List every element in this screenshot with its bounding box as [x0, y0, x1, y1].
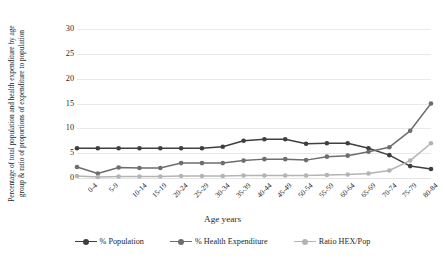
legend-item[interactable]: % Health Expenditure: [170, 237, 268, 246]
x-tick-label: 75-79: [400, 181, 418, 199]
data-point: [179, 174, 184, 179]
data-point: [325, 154, 330, 159]
x-axis-title: Age years: [0, 214, 445, 224]
x-tick-label: 0-4: [86, 181, 99, 194]
data-point: [179, 161, 184, 166]
legend-marker-icon: [75, 238, 97, 246]
data-point: [158, 146, 163, 151]
data-point: [75, 146, 80, 151]
y-tick-label: 25: [48, 49, 74, 58]
y-axis-title: Percentage of total population and healt…: [7, 19, 26, 209]
data-point: [262, 173, 267, 178]
data-point: [137, 166, 142, 171]
data-point: [179, 146, 184, 151]
data-point: [408, 158, 413, 163]
data-point: [220, 144, 225, 149]
y-tick-label: 20: [48, 74, 74, 83]
x-tick-label: 55-59: [317, 181, 335, 199]
data-point: [408, 129, 413, 134]
y-tick-label: 15: [48, 99, 74, 108]
data-point: [283, 137, 288, 142]
data-point: [241, 138, 246, 143]
data-point: [137, 146, 142, 151]
data-point: [241, 158, 246, 163]
x-tick-label: 60-64: [338, 181, 356, 199]
legend-label: % Health Expenditure: [195, 237, 268, 246]
data-point: [366, 171, 371, 176]
data-point: [158, 174, 163, 179]
data-point: [345, 141, 350, 146]
data-point: [220, 174, 225, 179]
x-tick-label: 45-49: [275, 181, 293, 199]
data-point: [158, 166, 163, 171]
data-point: [304, 158, 309, 163]
x-tick-label: 20-24: [171, 181, 189, 199]
x-tick-label: 65-69: [359, 181, 377, 199]
data-point: [200, 174, 205, 179]
data-point: [241, 173, 246, 178]
series-line: [77, 104, 431, 174]
data-point: [429, 101, 434, 106]
data-point: [75, 165, 80, 170]
chart-legend: % Population% Health ExpenditureRatio HE…: [0, 237, 445, 246]
data-point: [220, 161, 225, 166]
x-tick-label: 50-54: [296, 181, 314, 199]
data-point: [200, 146, 205, 151]
gridline: [77, 178, 431, 179]
legend-label: Ratio HEX/Pop: [319, 237, 371, 246]
x-tick-label: 30-34: [213, 181, 231, 199]
x-tick-label: 40-44: [255, 181, 273, 199]
series-layer: [77, 29, 431, 178]
y-tick-label: 10: [48, 123, 74, 132]
data-point: [200, 161, 205, 166]
x-tick-label: 25-29: [192, 181, 210, 199]
x-tick-label: 5-9: [107, 181, 120, 194]
data-point: [283, 157, 288, 162]
data-point: [429, 141, 434, 146]
data-point: [96, 175, 101, 180]
y-tick-label: 30: [48, 24, 74, 33]
data-point: [325, 141, 330, 146]
x-tick-label: 35-39: [234, 181, 252, 199]
data-point: [75, 174, 80, 179]
y-tick-label: 5: [48, 148, 74, 157]
data-point: [96, 146, 101, 151]
data-point: [137, 174, 142, 179]
x-tick-label: 70-74: [380, 181, 398, 199]
x-tick-label: 10-14: [130, 181, 148, 199]
data-point: [387, 168, 392, 173]
data-point: [116, 146, 121, 151]
plot-area: [77, 29, 431, 178]
y-tick-label: 0: [48, 173, 74, 182]
data-point: [366, 149, 371, 154]
legend-label: % Population: [100, 237, 144, 246]
legend-marker-icon: [294, 238, 316, 246]
x-tick-label: 15-19: [150, 181, 168, 199]
data-point: [345, 153, 350, 158]
legend-marker-icon: [170, 238, 192, 246]
data-point: [429, 167, 434, 172]
data-point: [262, 137, 267, 142]
line-chart: Percentage of total population and healt…: [0, 0, 445, 262]
data-point: [325, 173, 330, 178]
data-point: [345, 172, 350, 177]
x-tick-label: 80-84: [421, 181, 439, 199]
series-line: [77, 139, 431, 169]
data-point: [116, 165, 121, 170]
legend-item[interactable]: % Population: [75, 237, 144, 246]
data-point: [304, 173, 309, 178]
data-point: [408, 164, 413, 169]
data-point: [387, 145, 392, 150]
y-axis-tick-labels: 051015202530: [44, 29, 74, 178]
data-point: [262, 157, 267, 162]
data-point: [283, 173, 288, 178]
data-point: [116, 174, 121, 179]
legend-item[interactable]: Ratio HEX/Pop: [294, 237, 371, 246]
data-point: [387, 153, 392, 158]
data-point: [304, 141, 309, 146]
